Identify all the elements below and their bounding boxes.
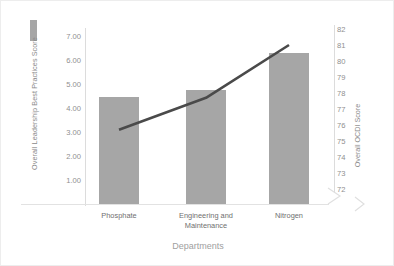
left-axis-ticks: 7.006.005.004.003.002.001.00 bbox=[31, 1, 81, 266]
x-axis-category-label: Engineering andMaintenance bbox=[158, 211, 254, 231]
right-axis-tick: 79 bbox=[337, 73, 359, 82]
right-axis-tick: 73 bbox=[337, 169, 359, 178]
left-axis-tick: 4.00 bbox=[35, 104, 81, 113]
bar bbox=[99, 97, 139, 204]
right-axis-tick: 74 bbox=[337, 153, 359, 162]
right-axis-tick: 76 bbox=[337, 121, 359, 130]
right-axis-tick: 82 bbox=[337, 25, 359, 34]
right-axis-tick: 80 bbox=[337, 57, 359, 66]
x-axis-arrow-icon bbox=[353, 195, 371, 213]
x-axis-line bbox=[21, 204, 329, 205]
right-axis-tick: 75 bbox=[337, 137, 359, 146]
bar bbox=[269, 53, 309, 204]
left-axis-tick: 5.00 bbox=[35, 80, 81, 89]
right-axis-tick: 78 bbox=[337, 89, 359, 98]
x-axis-category-label: Phosphate bbox=[71, 211, 167, 221]
left-axis-tick: 3.00 bbox=[35, 128, 81, 137]
left-axis-tick: 6.00 bbox=[35, 56, 81, 65]
bar bbox=[186, 90, 226, 204]
right-axis-tick: 81 bbox=[337, 41, 359, 50]
right-axis-ticks: 8281807978777675747372 bbox=[337, 1, 361, 266]
left-axis-tick: 7.00 bbox=[35, 32, 81, 41]
right-axis-tick: 77 bbox=[337, 105, 359, 114]
left-axis-tick: 1.00 bbox=[35, 176, 81, 185]
x-axis-title: Departments bbox=[1, 241, 394, 251]
left-axis-tick: 2.00 bbox=[35, 152, 81, 161]
chart-figure: Overall Leadership Best Practices Score … bbox=[0, 0, 394, 266]
x-axis-category-label: Nitrogen bbox=[241, 211, 337, 221]
